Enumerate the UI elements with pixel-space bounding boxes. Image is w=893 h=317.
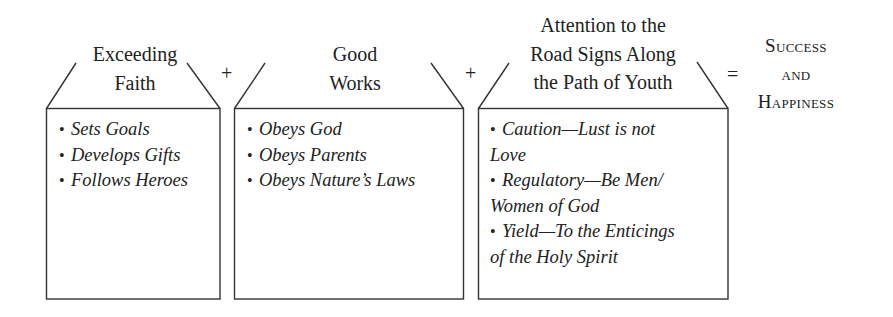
heading-exceeding-faith: Exceeding Faith xyxy=(60,40,210,97)
list-item-text: Sets Goals xyxy=(71,119,150,139)
list-item-yield: • Yield—To the Enticings of the Holy Spi… xyxy=(490,219,726,270)
result-line: Happiness xyxy=(738,88,854,116)
plus-operator-1: + xyxy=(221,63,232,83)
result-success-and-happiness: Success and Happiness xyxy=(738,32,854,116)
heading-line: Good xyxy=(290,40,420,69)
list-item-text: Caution—Lust is not xyxy=(502,119,655,139)
bullet-icon: • xyxy=(247,168,253,194)
list-item: • Obeys Nature’s Laws xyxy=(247,168,463,194)
list-road-signs: • Caution—Lust is not Love • Regulatory—… xyxy=(490,117,726,270)
list-item: • Sets Goals xyxy=(59,117,219,143)
list-item: • Develops Gifts xyxy=(59,143,219,169)
list-item-text: Obeys Nature’s Laws xyxy=(259,170,415,190)
list-good-works: • Obeys God • Obeys Parents • Obeys Natu… xyxy=(247,117,463,194)
bullet-icon: • xyxy=(247,117,253,143)
heading-line: the Path of Youth xyxy=(508,68,698,97)
list-item-text: Yield—To the Enticings xyxy=(502,221,675,241)
list-item-text: Follows Heroes xyxy=(71,170,188,190)
bullet-icon: • xyxy=(490,117,496,143)
result-line: and xyxy=(738,60,854,88)
plus-operator-2: + xyxy=(465,63,476,83)
list-item-caution: • Caution—Lust is not Love xyxy=(490,117,726,168)
list-item-text: Develops Gifts xyxy=(71,145,180,165)
list-item-text: Obeys Parents xyxy=(259,145,367,165)
heading-line: Works xyxy=(290,69,420,98)
result-line: Success xyxy=(738,32,854,60)
list-exceeding-faith: • Sets Goals • Develops Gifts • Follows … xyxy=(59,117,219,194)
bullet-icon: • xyxy=(490,168,496,194)
list-item: • Obeys Parents xyxy=(247,143,463,169)
list-item-text: Obeys God xyxy=(259,119,342,139)
list-item-regulatory: • Regulatory—Be Men/ Women of God xyxy=(490,168,726,219)
bullet-icon: • xyxy=(59,168,65,194)
list-item-text-continued: Women of God xyxy=(490,194,726,220)
heading-good-works: Good Works xyxy=(290,40,420,97)
list-item: • Follows Heroes xyxy=(59,168,219,194)
heading-line: Faith xyxy=(60,69,210,98)
list-item: • Obeys God xyxy=(247,117,463,143)
heading-road-signs: Attention to the Road Signs Along the Pa… xyxy=(508,11,698,97)
heading-line: Road Signs Along xyxy=(508,40,698,69)
list-item-text: Regulatory—Be Men/ xyxy=(502,170,663,190)
heading-line: Attention to the xyxy=(508,11,698,40)
bullet-icon: • xyxy=(247,143,253,169)
list-item-text-continued: of the Holy Spirit xyxy=(490,245,726,271)
list-item-text-continued: Love xyxy=(490,143,726,169)
bullet-icon: • xyxy=(59,117,65,143)
bullet-icon: • xyxy=(59,143,65,169)
equals-operator: = xyxy=(727,64,738,84)
heading-line: Exceeding xyxy=(60,40,210,69)
bullet-icon: • xyxy=(490,219,496,245)
